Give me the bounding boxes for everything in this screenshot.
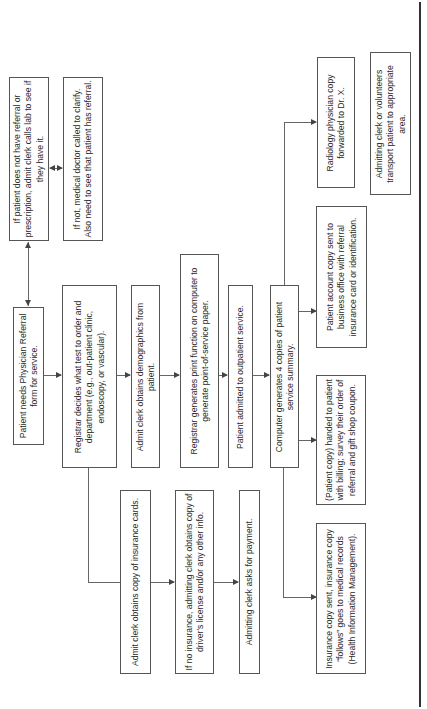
node-needs-referral-text: Patient needs Physician Referral form fo… (17, 310, 40, 442)
arrowhead-icon (264, 372, 270, 378)
arrowhead-icon (233, 579, 239, 585)
node-demographics-text: Admit clerk obtains demographics from pa… (134, 289, 157, 465)
node-patient-copy: (Patient copy) handed to patient with bi… (316, 375, 366, 505)
arrowhead-icon (25, 242, 31, 248)
node-doctor-clarify-text: If not, medical doctor called to clarify… (72, 80, 95, 238)
node-no-insurance: If no insurance, admitting clerk obtains… (175, 490, 214, 674)
node-no-insurance-text: If no insurance, admitting clerk obtains… (183, 493, 206, 671)
node-insurance-cards: Admit clerk obtains copy of insurance ca… (120, 490, 151, 674)
node-asks-payment-text: Admitting clerk asks for payment. (244, 493, 255, 671)
edge-registrar-insurance (88, 468, 89, 582)
node-registrar-decides: Registrar decides what test to order and… (62, 285, 117, 468)
node-radiology-copy: Radiology physician copy forwarded to Dr… (317, 57, 355, 188)
edge-referral-lab (28, 242, 29, 306)
node-transport-text: Admitting clerk or volunteers transport … (374, 54, 408, 193)
edge-registrar-insurance-h (88, 582, 120, 583)
arrowhead-icon (222, 372, 228, 378)
edge-copies-trunk-up (284, 122, 285, 285)
node-asks-payment: Admitting clerk asks for payment. (239, 490, 260, 674)
node-registrar-decides-text: Registrar decides what test to order and… (73, 289, 107, 465)
arrowhead-icon (56, 372, 62, 378)
node-lab-call: If patient does not have referral or pre… (9, 77, 49, 241)
node-account-copy: Patient account copy sent to business of… (316, 206, 367, 348)
node-insurance-copy: Insurance copy sent, insurance copy “fol… (316, 523, 366, 674)
arrowhead-icon (174, 372, 180, 378)
node-doctor-clarify: If not, medical doctor called to clarify… (63, 77, 103, 241)
node-patient-copy-text: (Patient copy) handed to patient with bi… (324, 377, 358, 503)
node-radiology-copy-text: Radiology physician copy forwarded to Dr… (325, 59, 348, 186)
node-admitted-text: Patient admitted to outpatient service. (235, 289, 246, 465)
node-demographics: Admit clerk obtains demographics from pa… (131, 285, 160, 468)
edge-copies-trunk-down (283, 468, 284, 597)
node-needs-referral: Patient needs Physician Referral form fo… (13, 307, 44, 445)
arrowhead-icon (25, 300, 31, 306)
arrowhead-icon (169, 579, 175, 585)
node-print-function-text: Registrar generates print function on co… (188, 256, 211, 466)
node-insurance-cards-text: Admit clerk obtains copy of insurance ca… (130, 493, 141, 671)
node-account-copy-text: Patient account copy sent to business of… (325, 208, 359, 346)
node-four-copies-text: Computer generates 4 copies of patient s… (273, 289, 296, 465)
node-transport: Admitting clerk or volunteers transport … (370, 52, 411, 195)
page-border-rule (419, 2, 421, 707)
node-insurance-copy-text: Insurance copy sent, insurance copy “fol… (324, 526, 358, 672)
node-print-function: Registrar generates print function on co… (180, 254, 219, 468)
node-four-copies: Computer generates 4 copies of patient s… (270, 285, 299, 468)
node-admitted: Patient admitted to outpatient service. (228, 285, 253, 468)
arrowhead-icon (125, 372, 131, 378)
arrowhead-icon (49, 165, 55, 171)
node-lab-call-text: If patient does not have referral or pre… (12, 80, 46, 238)
arrowhead-icon (57, 165, 63, 171)
